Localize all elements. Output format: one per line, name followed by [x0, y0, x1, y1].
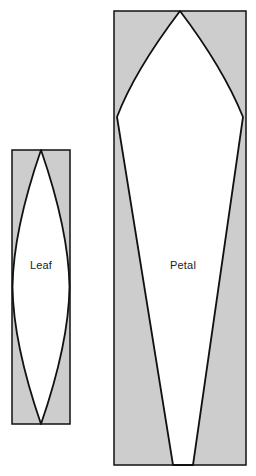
leaf-shape-group[interactable]: Leaf	[12, 150, 70, 424]
petal-label: Petal	[170, 259, 196, 271]
diagram-canvas: Leaf Petal	[0, 0, 256, 476]
petal-shape-group[interactable]: Petal	[114, 11, 246, 465]
leaf-label: Leaf	[30, 259, 53, 271]
shape-diagram: Leaf Petal	[0, 0, 256, 476]
